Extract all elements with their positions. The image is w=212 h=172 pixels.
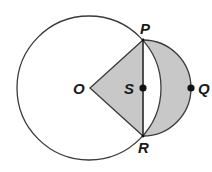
- geometry-diagram: O S Q P R: [0, 0, 212, 172]
- shaded-triangle-opr: [90, 40, 143, 136]
- label-q: Q: [198, 80, 210, 97]
- label-p: P: [140, 20, 151, 37]
- label-o: O: [73, 80, 85, 97]
- point-s-dot: [139, 84, 146, 91]
- point-p-dot: [142, 39, 145, 42]
- point-r-dot: [142, 135, 145, 138]
- label-s: S: [124, 80, 134, 97]
- label-r: R: [138, 139, 149, 156]
- shaded-crescent: [143, 40, 191, 136]
- point-q-dot: [187, 84, 194, 91]
